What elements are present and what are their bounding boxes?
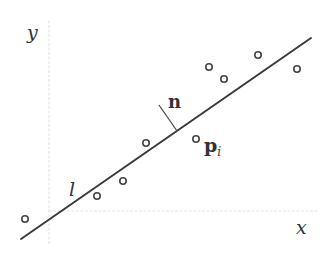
data-point	[22, 216, 28, 222]
point-pi-label: pi	[204, 134, 221, 159]
data-point	[255, 52, 261, 58]
data-point	[206, 64, 212, 70]
line-fit-diagram: x y l n pi	[0, 0, 334, 259]
data-point	[221, 76, 227, 82]
data-points	[22, 52, 300, 222]
data-point	[143, 140, 149, 146]
point-label-main: p	[204, 134, 217, 156]
y-axis-label: y	[26, 21, 38, 43]
line-label: l	[69, 178, 75, 200]
normal-label: n	[168, 91, 181, 112]
x-axis-label: x	[296, 216, 307, 238]
data-point	[294, 66, 300, 72]
fitted-line	[21, 38, 311, 239]
point-label-subscript: i	[217, 145, 221, 159]
data-point-pi	[193, 136, 199, 142]
data-point	[94, 193, 100, 199]
data-point	[120, 178, 126, 184]
